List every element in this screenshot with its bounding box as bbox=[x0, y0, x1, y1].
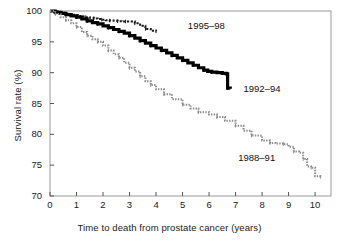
curve-annotation: 1992–94 bbox=[244, 83, 281, 94]
curve-annotation: 1988–91 bbox=[238, 152, 275, 163]
x-tick-label: 7 bbox=[226, 199, 246, 210]
x-tick-label: 3 bbox=[120, 199, 140, 210]
series-curves bbox=[50, 10, 320, 179]
plot-frame bbox=[50, 11, 331, 196]
y-tick-label: 95 bbox=[16, 36, 42, 47]
y-tick-label: 85 bbox=[16, 98, 42, 109]
y-tick-label: 75 bbox=[16, 159, 42, 170]
x-tick-label: 10 bbox=[305, 199, 325, 210]
x-axis-title: Time to death from prostate cancer (year… bbox=[0, 222, 339, 233]
curve-annotation: 1995–98 bbox=[188, 20, 225, 31]
x-tick-label: 9 bbox=[279, 199, 299, 210]
x-tick-label: 5 bbox=[173, 199, 193, 210]
y-tick-label: 90 bbox=[16, 67, 42, 78]
x-tick-label: 1 bbox=[67, 199, 87, 210]
x-tick-label: 8 bbox=[252, 199, 272, 210]
x-tick-label: 0 bbox=[40, 199, 60, 210]
x-tick-label: 2 bbox=[93, 199, 113, 210]
x-tick-label: 4 bbox=[146, 199, 166, 210]
chart-figure: Survival rate (%) Time to death from pro… bbox=[0, 0, 339, 240]
y-tick-label: 80 bbox=[16, 128, 42, 139]
x-tick-label: 6 bbox=[199, 199, 219, 210]
curve-1988-91 bbox=[50, 11, 320, 177]
y-tick-label: 70 bbox=[16, 190, 42, 201]
y-tick-label: 100 bbox=[16, 5, 42, 16]
